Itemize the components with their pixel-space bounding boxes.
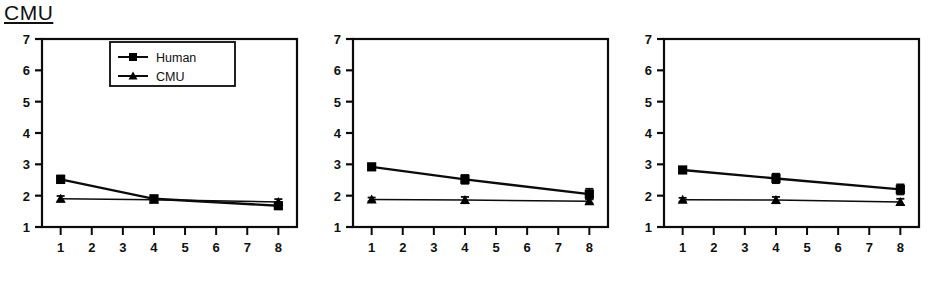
y-axis-tick-label: 1	[23, 220, 30, 235]
y-axis-tick-label: 2	[23, 189, 30, 204]
y-axis-tick-label: 3	[334, 157, 341, 172]
data-series-human	[56, 175, 283, 211]
x-axis-tick-label: 6	[524, 240, 531, 255]
y-axis-tick-label: 4	[23, 126, 31, 141]
x-axis-tick-label: 5	[181, 240, 188, 255]
x-axis-tick-label: 6	[835, 240, 842, 255]
y-axis-tick-label: 3	[645, 157, 652, 172]
x-axis-tick-label: 8	[275, 240, 282, 255]
plot-frame	[353, 39, 608, 227]
y-axis-tick-label: 1	[645, 220, 652, 235]
x-axis-tick-label: 2	[88, 240, 95, 255]
x-axis-tick-label: 2	[710, 240, 717, 255]
series-line	[683, 170, 901, 189]
legend-label: Human	[156, 51, 196, 65]
y-axis-tick-label: 6	[645, 63, 652, 78]
data-point-square-marker	[56, 175, 65, 184]
x-axis-tick-label: 4	[772, 240, 780, 255]
series-line	[683, 200, 901, 202]
x-axis-tick-label: 4	[150, 240, 158, 255]
y-axis-tick-label: 3	[23, 157, 30, 172]
chart-panel-1: 123456712345678HumanCMU	[0, 28, 311, 278]
legend-label: CMU	[156, 70, 184, 84]
data-series-cmu	[678, 195, 906, 206]
data-point-square-marker	[771, 174, 780, 183]
y-axis-tick-label: 2	[334, 189, 341, 204]
x-axis-tick-label: 4	[461, 240, 469, 255]
x-axis-tick-label: 3	[430, 240, 437, 255]
x-axis-tick-label: 3	[741, 240, 748, 255]
y-axis-tick-label: 5	[334, 95, 341, 110]
x-axis-tick-label: 1	[368, 240, 375, 255]
data-point-square-marker	[678, 165, 687, 174]
chart-svg: 123456712345678HumanCMU	[0, 28, 311, 278]
chart-svg: 123456712345678	[622, 28, 933, 278]
y-axis-tick-label: 4	[334, 126, 342, 141]
y-axis-tick-label: 5	[645, 95, 652, 110]
x-axis-tick-label: 7	[866, 240, 873, 255]
chart-panel-2: 123456712345678	[311, 28, 622, 278]
data-point-square-marker	[460, 175, 469, 184]
y-axis-tick-label: 6	[23, 63, 30, 78]
legend-square-marker-icon	[129, 53, 137, 61]
x-axis-tick-label: 2	[399, 240, 406, 255]
panel-row: 123456712345678HumanCMU 123456712345678 …	[0, 28, 933, 278]
y-axis-tick-label: 7	[23, 32, 30, 47]
chart-svg: 123456712345678	[311, 28, 622, 278]
y-axis-tick-label: 4	[645, 126, 653, 141]
chart-legend: HumanCMU	[110, 42, 235, 86]
x-axis-tick-label: 1	[679, 240, 686, 255]
data-point-square-marker	[896, 185, 905, 194]
x-axis-tick-label: 6	[213, 240, 220, 255]
x-axis-tick-label: 7	[555, 240, 562, 255]
x-axis-tick-label: 8	[897, 240, 904, 255]
chart-panel-3: 123456712345678	[622, 28, 933, 278]
series-line	[372, 167, 590, 194]
x-axis-tick-label: 3	[119, 240, 126, 255]
data-point-square-marker	[367, 162, 376, 171]
y-axis-tick-label: 7	[334, 32, 341, 47]
y-axis-tick-label: 1	[334, 220, 341, 235]
figure-container: CMU 123456712345678HumanCMU 123456712345…	[0, 0, 933, 301]
x-axis-tick-label: 5	[492, 240, 499, 255]
y-axis-tick-label: 5	[23, 95, 30, 110]
y-axis-tick-label: 7	[645, 32, 652, 47]
x-axis-tick-label: 7	[244, 240, 251, 255]
y-axis-tick-label: 2	[645, 189, 652, 204]
series-line	[61, 199, 279, 202]
data-series-human	[367, 162, 594, 199]
x-axis-tick-label: 5	[803, 240, 810, 255]
page-title: CMU	[4, 1, 53, 25]
data-series-cmu	[367, 194, 595, 205]
data-series-human	[678, 165, 905, 194]
x-axis-tick-label: 1	[57, 240, 64, 255]
y-axis-tick-label: 6	[334, 63, 341, 78]
x-axis-tick-label: 8	[586, 240, 593, 255]
series-line	[372, 199, 590, 201]
plot-frame	[664, 39, 919, 227]
